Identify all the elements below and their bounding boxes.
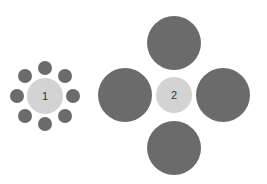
circle-group-1: 1 (10, 61, 80, 131)
ebbinghaus-diagram: 12 (0, 0, 267, 184)
surround-circle (18, 109, 32, 123)
surround-circle (147, 121, 201, 175)
group-label: 2 (171, 89, 177, 101)
surround-circle (10, 89, 24, 103)
surround-circle (38, 117, 52, 131)
surround-circle (58, 109, 72, 123)
circle-group-2: 2 (98, 16, 250, 175)
group-label: 1 (42, 90, 48, 102)
surround-circle (18, 69, 32, 83)
surround-circle (196, 68, 250, 122)
surround-circle (66, 89, 80, 103)
surround-circle (58, 69, 72, 83)
surround-circle (38, 61, 52, 75)
surround-circle (147, 16, 201, 70)
surround-circle (98, 68, 152, 122)
